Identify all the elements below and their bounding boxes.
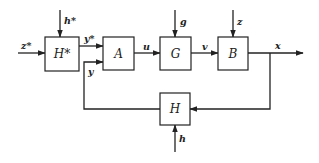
- label-hstar: h*: [64, 15, 76, 26]
- svg-text:G: G: [171, 47, 181, 61]
- block-B: B: [218, 37, 248, 70]
- label-v: v: [202, 41, 208, 52]
- svg-text:B: B: [228, 47, 238, 61]
- label-zstar: z*: [20, 40, 31, 51]
- svg-text:A: A: [113, 47, 123, 61]
- svg-text:H: H: [169, 102, 181, 116]
- label-ystar: y*: [83, 33, 95, 44]
- block-G: G: [160, 37, 191, 70]
- label-u: u: [143, 41, 150, 52]
- block-H: H: [160, 93, 190, 125]
- label-g: g: [180, 16, 187, 27]
- svg-text:H*: H*: [53, 47, 70, 61]
- block-A: A: [103, 37, 134, 70]
- block-diagram: H* A G B H z* h* y* y u g v z x h: [0, 0, 319, 163]
- label-z: z: [236, 16, 243, 27]
- label-h: h: [179, 133, 186, 144]
- label-x: x: [274, 40, 281, 51]
- block-Hstar: H*: [45, 37, 79, 71]
- label-y: y: [87, 66, 95, 77]
